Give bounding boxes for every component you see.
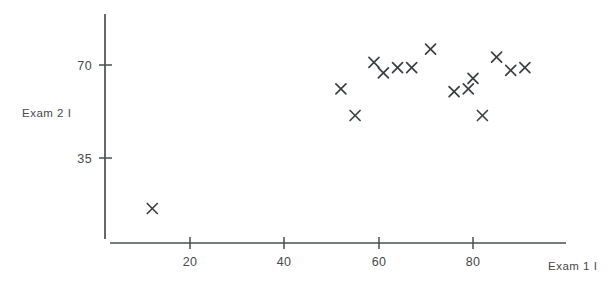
- data-point-marker: [520, 63, 530, 73]
- data-markers-group: [147, 44, 530, 213]
- plot-canvas: 70 35 Exam 2 I 20 40 60 80 Exam 1 I: [0, 0, 610, 288]
- data-point-marker: [378, 68, 388, 78]
- x-axis-group: 20 40 60 80 Exam 1 I: [110, 237, 597, 272]
- data-point-marker: [468, 73, 478, 83]
- x-tick-label-40: 40: [277, 255, 292, 269]
- y-axis-title: Exam 2 I: [22, 107, 71, 119]
- data-point-marker: [492, 52, 502, 62]
- data-point-marker: [463, 84, 473, 94]
- x-tick-label-80: 80: [466, 255, 481, 269]
- data-point-marker: [506, 65, 516, 75]
- data-point-marker: [369, 57, 379, 67]
- data-point-marker: [350, 110, 360, 120]
- y-tick-label-70: 70: [77, 59, 92, 73]
- data-point-marker: [393, 63, 403, 73]
- data-point-marker: [426, 44, 436, 54]
- data-point-marker: [449, 87, 459, 97]
- data-point-marker: [147, 203, 157, 213]
- y-axis-group: 70 35 Exam 2 I: [22, 14, 112, 239]
- scatter-plot-figure: 70 35 Exam 2 I 20 40 60 80 Exam 1 I: [0, 0, 610, 288]
- x-tick-label-60: 60: [372, 255, 387, 269]
- y-tick-label-35: 35: [77, 152, 92, 166]
- x-tick-label-20: 20: [183, 255, 198, 269]
- x-axis-title: Exam 1 I: [548, 260, 597, 272]
- data-point-marker: [407, 63, 417, 73]
- data-point-marker: [336, 84, 346, 94]
- data-point-marker: [477, 110, 487, 120]
